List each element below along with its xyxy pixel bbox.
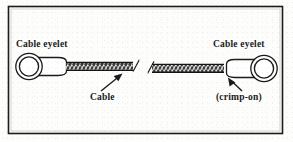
eyelet-right-ring-inner: [254, 59, 273, 78]
diagram-canvas: [0, 0, 293, 142]
cable-segment-left: [66, 62, 133, 70]
break-symbol: [133, 60, 154, 74]
eyelet-left-ring-inner: [19, 57, 38, 76]
leader-arrow-crimp: [228, 78, 242, 92]
cable-segment-right: [152, 64, 224, 72]
eyelet-left: [16, 53, 67, 79]
cable-assembly-diagram: Cable eyelet Cable eyelet Cable (crimp-o…: [0, 0, 293, 142]
leader-arrow-cable: [101, 74, 123, 92]
eyelet-right: [227, 55, 278, 81]
label-cable-eyelet-left: Cable eyelet: [16, 40, 68, 50]
label-cable: Cable: [90, 93, 115, 103]
label-cable-eyelet-right: Cable eyelet: [213, 40, 265, 50]
label-crimp-on: (crimp-on): [216, 93, 262, 103]
